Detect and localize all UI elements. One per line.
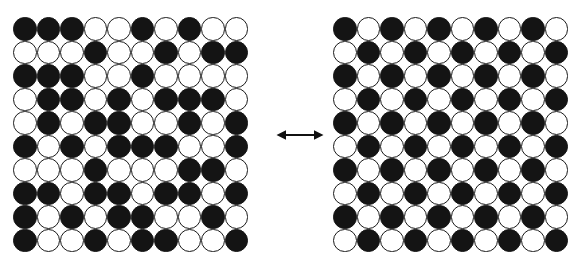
- lattice-site-white: [545, 158, 569, 182]
- lattice-site-white: [60, 111, 84, 135]
- lattice-site-black: [333, 17, 357, 41]
- lattice-site-white: [178, 205, 202, 229]
- lattice-site-black: [37, 17, 61, 41]
- lattice-site-black: [37, 182, 61, 206]
- lattice-site-white: [545, 111, 569, 135]
- lattice-site-black: [451, 229, 475, 253]
- lattice-site-black: [37, 64, 61, 88]
- lattice-site-black: [225, 182, 249, 206]
- lattice-site-white: [404, 64, 428, 88]
- lattice-site-white: [178, 229, 202, 253]
- lattice-site-black: [154, 88, 178, 112]
- lattice-site-black: [13, 229, 37, 253]
- lattice-site-black: [498, 229, 522, 253]
- lattice-site-black: [451, 182, 475, 206]
- lattice-site-black: [84, 182, 108, 206]
- lattice-site-black: [131, 17, 155, 41]
- lattice-site-white: [474, 135, 498, 159]
- lattice-site-black: [357, 229, 381, 253]
- lattice-site-white: [404, 158, 428, 182]
- lattice-site-white: [107, 229, 131, 253]
- lattice-site-black: [131, 64, 155, 88]
- lattice-site-black: [474, 17, 498, 41]
- lattice-site-black: [178, 182, 202, 206]
- lattice-site-black: [404, 229, 428, 253]
- lattice-site-black: [225, 229, 249, 253]
- lattice-site-white: [404, 205, 428, 229]
- lattice-site-black: [357, 135, 381, 159]
- lattice-site-white: [474, 41, 498, 65]
- lattice-site-black: [451, 135, 475, 159]
- lattice-site-white: [154, 111, 178, 135]
- lattice-site-white: [201, 135, 225, 159]
- lattice-site-white: [201, 111, 225, 135]
- lattice-site-white: [225, 158, 249, 182]
- lattice-site-black: [178, 88, 202, 112]
- lattice-site-black: [60, 205, 84, 229]
- lattice-site-black: [154, 41, 178, 65]
- lattice-site-white: [380, 88, 404, 112]
- lattice-site-white: [474, 88, 498, 112]
- lattice-site-black: [521, 64, 545, 88]
- lattice-site-black: [427, 158, 451, 182]
- lattice-site-black: [404, 88, 428, 112]
- lattice-site-white: [107, 158, 131, 182]
- lattice-site-black: [225, 41, 249, 65]
- lattice-site-black: [225, 135, 249, 159]
- lattice-site-black: [521, 111, 545, 135]
- lattice-site-white: [357, 64, 381, 88]
- lattice-site-black: [545, 182, 569, 206]
- lattice-site-black: [84, 229, 108, 253]
- lattice-site-black: [60, 64, 84, 88]
- lattice-site-white: [178, 64, 202, 88]
- lattice-site-black: [84, 41, 108, 65]
- lattice-site-white: [545, 64, 569, 88]
- lattice-site-white: [474, 182, 498, 206]
- lattice-site-black: [451, 41, 475, 65]
- lattice-site-black: [60, 135, 84, 159]
- lattice-site-white: [13, 158, 37, 182]
- lattice-site-white: [451, 17, 475, 41]
- lattice-site-white: [13, 111, 37, 135]
- lattice-site-white: [404, 111, 428, 135]
- lattice-site-white: [498, 17, 522, 41]
- lattice-site-white: [427, 88, 451, 112]
- lattice-site-black: [427, 17, 451, 41]
- lattice-site-white: [84, 64, 108, 88]
- lattice-site-black: [107, 205, 131, 229]
- lattice-site-black: [333, 158, 357, 182]
- lattice-site-black: [201, 205, 225, 229]
- lattice-site-black: [107, 111, 131, 135]
- lattice-site-black: [427, 111, 451, 135]
- lattice-site-white: [380, 135, 404, 159]
- lattice-site-black: [60, 17, 84, 41]
- lattice-site-black: [545, 229, 569, 253]
- lattice-site-white: [84, 135, 108, 159]
- lattice-site-white: [37, 229, 61, 253]
- lattice-site-white: [225, 17, 249, 41]
- lattice-site-white: [333, 88, 357, 112]
- lattice-site-white: [60, 229, 84, 253]
- lattice-site-white: [333, 182, 357, 206]
- lattice-site-white: [131, 88, 155, 112]
- lattice-site-white: [107, 64, 131, 88]
- lattice-site-black: [201, 41, 225, 65]
- lattice-site-black: [225, 111, 249, 135]
- lattice-site-white: [178, 135, 202, 159]
- lattice-site-white: [380, 229, 404, 253]
- lattice-site-white: [451, 111, 475, 135]
- lattice-site-black: [201, 88, 225, 112]
- lattice-site-white: [84, 205, 108, 229]
- lattice-site-white: [521, 229, 545, 253]
- lattice-site-black: [521, 205, 545, 229]
- lattice-site-black: [474, 205, 498, 229]
- lattice-site-black: [380, 158, 404, 182]
- lattice-site-white: [37, 41, 61, 65]
- lattice-site-black: [357, 182, 381, 206]
- lattice-site-white: [427, 135, 451, 159]
- lattice-site-white: [427, 182, 451, 206]
- lattice-site-black: [474, 64, 498, 88]
- lattice-site-black: [498, 182, 522, 206]
- lattice-site-black: [131, 135, 155, 159]
- lattice-site-white: [201, 229, 225, 253]
